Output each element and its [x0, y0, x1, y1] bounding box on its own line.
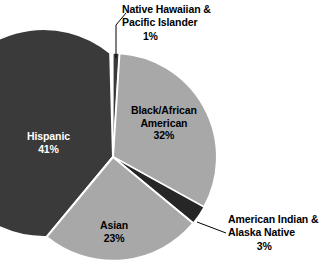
- slice-value-black-african-american: 32%: [131, 129, 197, 142]
- slice-label-line1: Hispanic: [27, 130, 70, 143]
- slice-label-native-hawaiian-pacific-islander: Native Hawaiian & Pacific Islander 1%: [122, 3, 211, 43]
- slice-value-asian: 23%: [100, 232, 128, 245]
- leader-line-american-indian: [197, 222, 226, 233]
- slice-label-line1: Asian: [100, 219, 128, 232]
- slice-value-native-hawaiian-pacific-islander: 1%: [122, 28, 211, 43]
- slice-label-line1: American Indian &: [228, 213, 319, 226]
- slice-label-line2: Alaska Native: [228, 226, 319, 239]
- slice-label-line2: American: [131, 117, 197, 130]
- slice-label-line2: Pacific Islander: [122, 16, 211, 29]
- slice-label-line1: Black/African: [131, 104, 197, 117]
- pie-chart: Native Hawaiian & Pacific Islander 1% Bl…: [0, 0, 324, 267]
- slice-label-black-african-american: Black/African American 32%: [131, 104, 197, 142]
- slice-label-line1: Native Hawaiian &: [122, 3, 211, 16]
- slice-value-hispanic: 41%: [27, 143, 70, 156]
- slice-label-hispanic: Hispanic 41%: [27, 130, 70, 155]
- slice-label-american-indian-alaska-native: American Indian & Alaska Native 3%: [228, 213, 319, 253]
- slice-label-asian: Asian 23%: [100, 219, 128, 244]
- slice-value-american-indian-alaska-native: 3%: [228, 238, 319, 253]
